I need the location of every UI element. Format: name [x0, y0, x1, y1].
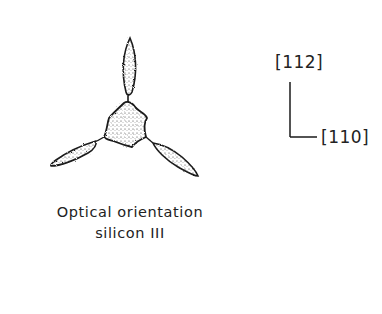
right-lobe: [153, 143, 198, 176]
star-shape: [51, 38, 198, 176]
axis-label-112: [112]: [275, 52, 323, 72]
left-lobe: [51, 141, 96, 166]
axis-label-110: [110]: [321, 127, 369, 147]
top-lobe: [123, 38, 135, 95]
figure-drawing: [0, 0, 382, 314]
orientation-axes: [290, 82, 317, 137]
caption-line-1: Optical orientation: [30, 204, 230, 220]
caption-line-2: silicon III: [30, 225, 230, 241]
optical-orientation-figure: [112] [110] Optical orientation silicon …: [0, 0, 382, 314]
center-body: [104, 102, 147, 147]
